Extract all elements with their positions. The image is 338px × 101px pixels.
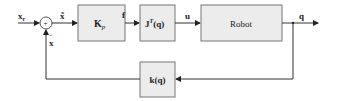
feedback-label: x [49, 38, 54, 48]
jacobian-label: JT(q) [145, 18, 164, 29]
sum-plus-sign: + [44, 20, 48, 28]
output-label: q [299, 11, 304, 21]
robot-label: Robot [230, 19, 253, 29]
torque-label: u [185, 11, 190, 21]
error-label: x̃ [60, 11, 65, 21]
block-diagram: xr + x̃ Kp f JT(q) u Robot q k(q) − x [0, 0, 338, 101]
kinematics-label: k(q) [149, 75, 165, 85]
input-label: xr [18, 11, 26, 22]
